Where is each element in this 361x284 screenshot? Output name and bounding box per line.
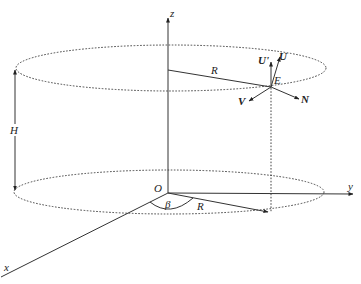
- angle-arc: [150, 198, 193, 209]
- angle-label: β: [164, 198, 171, 210]
- bottom-radius: [168, 193, 268, 212]
- vector-V-label: V: [238, 95, 247, 107]
- vector-V: [249, 87, 271, 101]
- vector-U-label: U: [279, 50, 288, 62]
- bottom-radius-label: R: [196, 200, 204, 212]
- height-label: H: [9, 124, 19, 136]
- cylinder-diagram: z y x O H R R β U' U V N E: [0, 0, 361, 284]
- vector-U-prime-label: U': [258, 54, 269, 66]
- x-axis-label: x: [3, 261, 9, 273]
- x-axis: [1, 193, 168, 277]
- vector-N: [271, 87, 299, 99]
- y-axis: [168, 193, 353, 194]
- top-radius-label: R: [210, 64, 218, 76]
- vector-N-label: N: [300, 93, 310, 105]
- point-E-label: E: [273, 74, 281, 86]
- y-axis-label: y: [347, 180, 353, 192]
- diagram-canvas: z y x O H R R β U' U V N E: [0, 0, 361, 284]
- origin-label: O: [154, 182, 162, 194]
- top-radius: [168, 70, 271, 87]
- z-axis-label: z: [169, 7, 175, 19]
